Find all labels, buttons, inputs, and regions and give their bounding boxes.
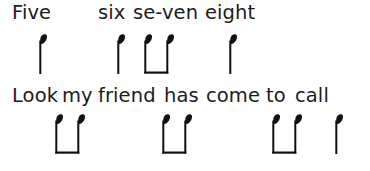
beamed-eighth-pair (157, 113, 199, 161)
rhythm-sheet: Five six se-ven eight (0, 0, 370, 171)
beamed-eighth-pair (139, 33, 181, 81)
lyric-word: friend (98, 83, 156, 109)
quarter-note (34, 33, 56, 81)
music-line-2: Look my friend has come to call (0, 83, 370, 171)
lyric-word: has (164, 83, 199, 109)
quarter-note (112, 33, 134, 81)
lyric-word: six (98, 0, 125, 26)
music-line-1: Five six se-ven eight (0, 0, 370, 85)
lyric-row-2: Look my friend has come to call (0, 83, 370, 115)
lyric-word: se-ven (133, 0, 198, 26)
lyric-word: eight (205, 0, 255, 26)
beamed-eighth-pair (267, 113, 309, 161)
notes-row-1 (0, 33, 370, 81)
notes-row-2 (0, 113, 370, 161)
beamed-eighth-pair (50, 113, 92, 161)
lyric-word: to (266, 83, 286, 109)
lyric-word: come (206, 83, 260, 109)
lyric-word: Five (12, 0, 51, 26)
quarter-note (330, 113, 352, 161)
lyric-row-1: Five six se-ven eight (0, 0, 370, 32)
lyric-word: Look (12, 83, 58, 109)
quarter-note (224, 33, 246, 81)
lyric-word: call (295, 83, 329, 109)
lyric-word: my (62, 83, 93, 109)
